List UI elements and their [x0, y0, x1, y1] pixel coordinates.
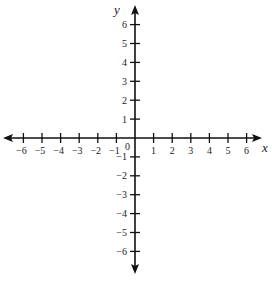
y-tick-label: −5 [116, 227, 127, 238]
x-tick-label: 3 [188, 145, 193, 156]
y-tick-label: 3 [122, 76, 127, 87]
x-tick-label: −2 [90, 145, 101, 156]
origin-label: 0 [125, 141, 130, 152]
y-tick-label: 1 [122, 114, 127, 125]
x-tick-label: 5 [226, 145, 231, 156]
x-tick-label: 1 [151, 145, 156, 156]
x-tick-label: 4 [207, 145, 212, 156]
y-tick-label: 6 [122, 19, 127, 30]
y-tick-label: −6 [116, 246, 127, 257]
x-tick-label: −3 [72, 145, 83, 156]
y-tick-label: −4 [116, 208, 127, 219]
x-tick-label: −5 [35, 145, 46, 156]
y-tick-label: 5 [122, 38, 127, 49]
x-tick-label: −4 [53, 145, 64, 156]
y-tick-label: 2 [122, 95, 127, 106]
y-tick-label: −3 [116, 189, 127, 200]
x-tick-label: 2 [170, 145, 175, 156]
y-tick-label: −1 [116, 151, 127, 162]
x-axis-label: x [261, 140, 268, 155]
x-tick-label: −6 [16, 145, 27, 156]
x-ticks: −6−5−4−3−2−1123456 [16, 133, 249, 156]
y-tick-label: 4 [122, 57, 127, 68]
y-tick-label: −2 [116, 170, 127, 181]
coordinate-plane: −6−5−4−3−2−1123456 654321−1−2−3−4−5−6 x … [0, 0, 272, 283]
y-axis-label: y [112, 2, 120, 17]
x-tick-label: 6 [244, 145, 249, 156]
